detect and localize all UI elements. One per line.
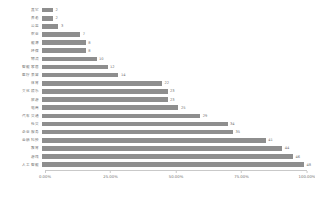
bar-row: 金融科技41 (0, 136, 315, 144)
bar-value-label: 8 (88, 49, 90, 53)
bar[interactable] (42, 146, 282, 151)
category-label: 社交 (0, 122, 42, 126)
bar-row: 文化娱乐23 (0, 87, 315, 95)
bar-value-label: 2 (55, 16, 57, 20)
bar[interactable] (42, 130, 233, 135)
category-label: 企业服务 (0, 130, 42, 134)
tick-label: 50.00% (169, 174, 183, 179)
category-label: 金融科技 (0, 138, 42, 142)
bar[interactable] (42, 89, 168, 94)
bar-value-label: 23 (170, 89, 175, 93)
bar-value-label: 48 (307, 163, 312, 167)
category-label: 汽车交通 (0, 114, 42, 118)
bar-track: 8 (42, 47, 315, 55)
bar-row: 社交34 (0, 120, 315, 128)
tick-mark (175, 171, 176, 173)
bar-value-label: 12 (110, 65, 115, 69)
bar-value-label: 41 (268, 138, 273, 142)
bar-track: 29 (42, 112, 315, 120)
bar-value-label: 10 (99, 57, 104, 61)
bar[interactable] (42, 48, 86, 53)
bar[interactable] (42, 16, 53, 21)
bar-track: 46 (42, 153, 315, 161)
bar-value-label: 25 (181, 106, 186, 110)
bar-value-label: 7 (83, 32, 85, 36)
category-label: 公益 (0, 24, 42, 28)
bar-track: 44 (42, 144, 315, 152)
bar-track: 14 (42, 71, 315, 79)
bar-track: 2 (42, 6, 315, 14)
category-label: 环保 (0, 49, 42, 53)
x-tick: 0.00% (39, 171, 51, 179)
tick-label: 25.00% (103, 174, 117, 179)
bar[interactable] (42, 97, 168, 102)
category-label: 智能家居 (0, 65, 42, 69)
bar-track: 23 (42, 96, 315, 104)
category-label: 文化娱乐 (0, 89, 42, 93)
bar-row: 企业服务35 (0, 128, 315, 136)
x-tick: 75.00% (234, 171, 248, 179)
bar[interactable] (42, 24, 58, 29)
tick-label: 0.00% (39, 174, 51, 179)
bar-value-label: 2 (55, 8, 57, 12)
bar-row: 能源8 (0, 39, 315, 47)
category-label: 人工智能 (0, 163, 42, 167)
tick-mark (45, 171, 46, 173)
category-label: 能源 (0, 41, 42, 45)
category-label: 体育 (0, 81, 42, 85)
bar[interactable] (42, 114, 200, 119)
bar-row: 环保8 (0, 47, 315, 55)
bar-value-label: 23 (170, 98, 175, 102)
bar[interactable] (42, 73, 118, 78)
bar[interactable] (42, 105, 178, 110)
tick-mark (241, 171, 242, 173)
bar-value-label: 14 (121, 73, 126, 77)
category-label: 电商 (0, 106, 42, 110)
bar-row: 电商25 (0, 104, 315, 112)
bar-value-label: 3 (61, 24, 63, 28)
category-label: 农业 (0, 32, 42, 36)
category-label: 其它 (0, 8, 42, 12)
bar[interactable] (42, 162, 304, 167)
plot-area: 其它2养老2公益3农业7能源8环保8物流10智能家居12医疗美容14体育22文化… (0, 6, 315, 169)
bar-track: 2 (42, 14, 315, 22)
category-label: 旅游 (0, 98, 42, 102)
bar-track: 25 (42, 104, 315, 112)
x-tick: 50.00% (169, 171, 183, 179)
bar-row: 体育22 (0, 79, 315, 87)
bar[interactable] (42, 154, 293, 159)
bar-track: 41 (42, 136, 315, 144)
bar-value-label: 34 (230, 122, 235, 126)
x-tick: 25.00% (103, 171, 117, 179)
bar-row: 教育44 (0, 144, 315, 152)
bar[interactable] (42, 40, 86, 45)
category-label: 教育 (0, 146, 42, 150)
bar-row: 医疗美容14 (0, 71, 315, 79)
bar-track: 10 (42, 55, 315, 63)
bar-row: 汽车交通29 (0, 112, 315, 120)
category-label: 养老 (0, 16, 42, 20)
bar[interactable] (42, 81, 162, 86)
bar-row: 其它2 (0, 6, 315, 14)
bar[interactable] (42, 8, 53, 13)
tick-mark (307, 171, 308, 173)
bar-row: 公益3 (0, 22, 315, 30)
x-axis-ticks: 0.00%25.00%50.00%75.00%100.00% (45, 171, 307, 183)
bar[interactable] (42, 57, 97, 62)
bar-value-label: 29 (203, 114, 208, 118)
bar-track: 34 (42, 120, 315, 128)
category-label: 物流 (0, 57, 42, 61)
bar-row: 物流10 (0, 55, 315, 63)
tick-mark (110, 171, 111, 173)
bar-value-label: 35 (236, 130, 241, 134)
bar-row: 人工智能48 (0, 161, 315, 169)
bar[interactable] (42, 138, 266, 143)
x-tick: 100.00% (299, 171, 315, 179)
bar[interactable] (42, 122, 228, 127)
bar-value-label: 46 (296, 155, 301, 159)
bar-track: 22 (42, 79, 315, 87)
bar[interactable] (42, 32, 80, 37)
bar-row: 农业7 (0, 30, 315, 38)
bar-track: 7 (42, 30, 315, 38)
bar[interactable] (42, 65, 108, 70)
